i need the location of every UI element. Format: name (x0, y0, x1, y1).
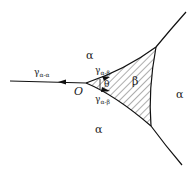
label-gamma-alpha-alpha: γα-α (34, 68, 50, 78)
label-origin: O (74, 86, 83, 97)
curve-alpha-alpha (10, 81, 86, 83)
beta-region (86, 47, 156, 126)
label-beta: β (132, 76, 138, 87)
label-alpha-right: α (176, 89, 183, 100)
label-gamma-alpha-beta-upper: γα-β (95, 66, 110, 76)
label-gamma-alpha-beta-lower: γα-β (95, 95, 110, 105)
triple-junction-diagram: α α α β O θ γα-α γα-β γα-β (0, 0, 194, 173)
label-theta: θ (104, 80, 109, 89)
label-alpha-bottom: α (95, 124, 102, 135)
arrow-left-icon (58, 80, 66, 85)
diagram-graphics (0, 0, 194, 173)
label-alpha-top: α (86, 50, 93, 61)
